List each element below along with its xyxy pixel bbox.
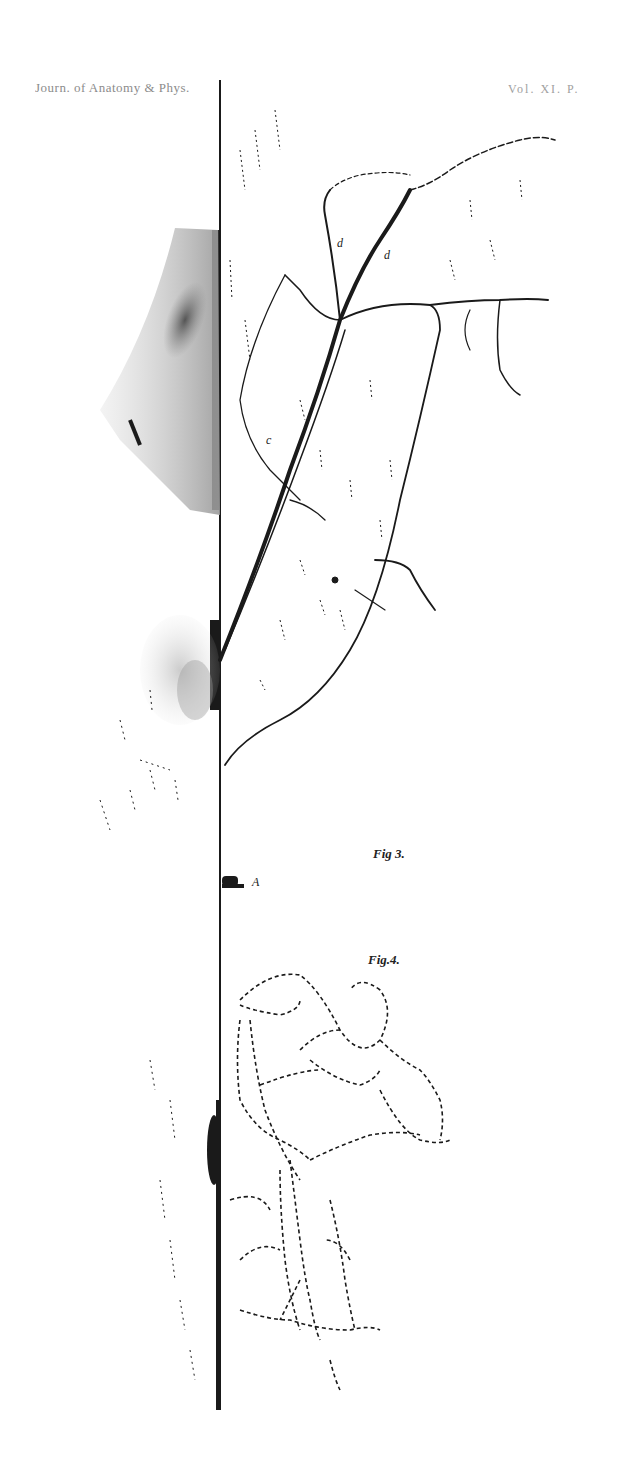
- fig4-left-stipple: [150, 1060, 195, 1380]
- figure-4-label: Fig.4.: [368, 952, 400, 968]
- annotation-d-left: d: [337, 236, 343, 251]
- marker-A: [222, 876, 244, 888]
- annotation-d-right: d: [384, 248, 390, 263]
- figure-3-label: Fig 3.: [373, 846, 405, 862]
- fig3-nerve-fibers: [220, 138, 555, 766]
- fig4-dashed-network: [230, 974, 450, 1390]
- fig3-stipple: [230, 110, 522, 690]
- annotation-A: A: [252, 875, 259, 890]
- shaded-tissue-upper: [100, 228, 220, 515]
- anatomical-plate-illustration: [0, 0, 617, 1477]
- annotation-c: c: [266, 433, 271, 448]
